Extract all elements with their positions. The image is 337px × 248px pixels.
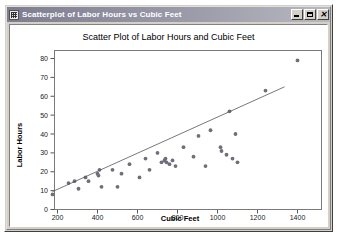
data-point	[171, 159, 175, 163]
data-point	[87, 179, 91, 183]
x-tick-label: 1200	[250, 214, 266, 221]
x-tick-label: 1000	[210, 214, 226, 221]
y-tick-label: 10	[40, 187, 48, 194]
data-point	[164, 157, 168, 161]
data-point	[100, 185, 104, 189]
data-point	[97, 174, 101, 178]
window-controls: ✕	[291, 9, 329, 20]
y-tick-label: 30	[40, 149, 48, 156]
data-point	[296, 58, 300, 62]
minimize-button[interactable]	[291, 9, 303, 20]
grid-window-icon	[9, 10, 19, 20]
data-point	[220, 149, 224, 153]
data-point	[120, 172, 124, 176]
data-point	[51, 193, 55, 197]
data-point	[182, 145, 186, 149]
y-tick-label: 50	[40, 112, 48, 119]
y-axis-ticks: 01020304050607080	[40, 55, 54, 213]
chart-title: Scatter Plot of Labor Hours and Cubic Fe…	[82, 32, 255, 42]
data-point	[219, 145, 223, 149]
data-point	[138, 176, 142, 180]
y-tick-label: 80	[40, 55, 48, 62]
data-point	[264, 89, 268, 93]
data-point	[77, 187, 81, 191]
data-point	[192, 155, 196, 159]
data-point	[156, 151, 160, 155]
maximize-button[interactable]	[304, 9, 316, 20]
scatter-plot: Scatter Plot of Labor Hours and Cubic Fe…	[10, 25, 327, 226]
data-point	[168, 162, 172, 166]
x-tick-label: 400	[92, 214, 104, 221]
maximize-icon	[307, 12, 313, 17]
data-point	[197, 134, 201, 138]
regression-line	[53, 87, 285, 192]
application-window: Scatterplot of Labor Hours vs Cubic Feet…	[4, 4, 333, 232]
y-tick-label: 20	[40, 168, 48, 175]
data-point	[236, 160, 240, 164]
y-axis-label: Labor Hours	[15, 123, 24, 168]
title-bar[interactable]: Scatterplot of Labor Hours vs Cubic Feet…	[7, 7, 330, 22]
data-point	[128, 162, 132, 166]
data-point	[174, 164, 178, 168]
window-title: Scatterplot of Labor Hours vs Cubic Feet	[22, 10, 291, 19]
data-point	[204, 164, 208, 168]
data-point	[144, 157, 148, 161]
close-icon: ✕	[318, 10, 328, 19]
data-point	[148, 168, 152, 172]
y-tick-label: 70	[40, 74, 48, 81]
data-point	[234, 132, 238, 136]
data-point	[111, 168, 115, 172]
x-tick-label: 600	[132, 214, 144, 221]
data-point	[116, 185, 120, 189]
y-tick-label: 40	[40, 131, 48, 138]
x-tick-label: 1400	[290, 214, 306, 221]
data-point	[231, 157, 235, 161]
x-tick-label: 800	[172, 214, 184, 221]
minimize-icon	[294, 15, 299, 17]
data-point	[225, 153, 229, 157]
data-point	[209, 128, 213, 132]
y-tick-label: 0	[44, 206, 48, 213]
x-axis-ticks: 200400600800100012001400	[52, 210, 306, 222]
close-button[interactable]: ✕	[317, 9, 329, 20]
x-tick-label: 200	[52, 214, 64, 221]
y-tick-label: 60	[40, 93, 48, 100]
chart-client-area: Scatter Plot of Labor Hours and Cubic Fe…	[9, 24, 328, 227]
